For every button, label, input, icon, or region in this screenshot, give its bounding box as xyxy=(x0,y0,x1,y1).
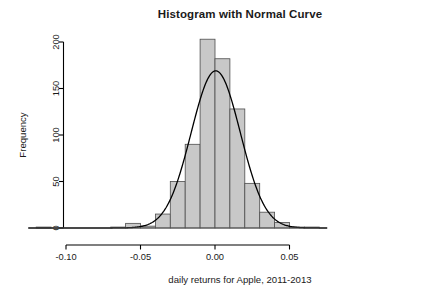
histogram-figure: 050100150200-0.10-0.050.000.05Histogram … xyxy=(0,0,446,299)
histogram-bars xyxy=(36,39,319,228)
x-axis-tick-label: -0.10 xyxy=(55,252,76,262)
y-axis-label: Frequency xyxy=(17,112,28,158)
x-axis-tick-label: 0.05 xyxy=(280,252,298,262)
histogram-bar xyxy=(230,109,245,228)
y-axis-tick-label: 200 xyxy=(51,34,61,50)
x-axis-label: daily returns for Apple, 2011-2013 xyxy=(168,274,311,285)
histogram-plot: 050100150200-0.10-0.050.000.05Histogram … xyxy=(0,0,446,299)
y-axis: 050100150200 xyxy=(51,34,64,230)
histogram-bar xyxy=(260,212,275,228)
histogram-bar xyxy=(215,59,230,228)
y-axis-tick-label: 150 xyxy=(51,81,61,97)
y-axis-tick-label: 100 xyxy=(51,127,61,143)
histogram-bar xyxy=(170,182,185,229)
y-axis-tick-label: 50 xyxy=(51,176,61,186)
histogram-bar xyxy=(155,214,170,228)
x-axis-tick-label: -0.05 xyxy=(130,252,151,262)
x-axis-tick-label: 0.00 xyxy=(206,252,224,262)
chart-title: Histogram with Normal Curve xyxy=(158,8,322,20)
histogram-bar xyxy=(200,39,215,228)
x-axis: -0.10-0.050.000.05 xyxy=(55,245,298,262)
histogram-bar xyxy=(185,144,200,228)
